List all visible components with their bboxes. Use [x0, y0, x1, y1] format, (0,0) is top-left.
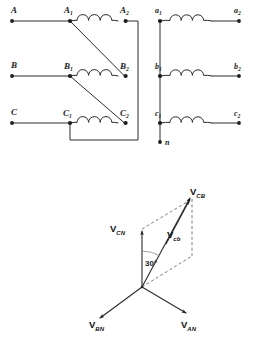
label-neutral: n	[165, 138, 170, 147]
delta-link-a2-c1	[70, 21, 138, 140]
coil-b	[70, 70, 118, 76]
label-terminal-c: C	[11, 107, 18, 117]
node-b2-terminal	[237, 74, 241, 78]
primary-circuit-group	[10, 15, 138, 140]
secondary-circuit-group	[158, 15, 241, 144]
label-vector-cn: VCN	[110, 223, 126, 236]
label-c2-secondary: c2	[234, 109, 241, 119]
label-b2: B2	[119, 61, 129, 72]
node-neutral	[158, 140, 162, 144]
coil-a-secondary	[160, 15, 212, 21]
node-c2-terminal	[237, 121, 241, 125]
angle-arc	[142, 251, 160, 256]
node-a2	[124, 19, 128, 23]
label-angle: 30°	[145, 259, 157, 268]
phasor-origin	[141, 286, 143, 288]
coil-a	[70, 15, 118, 21]
label-a1-secondary: a1	[155, 6, 162, 16]
node-b2	[124, 74, 128, 78]
node-a1	[68, 19, 72, 23]
delta-link-b1-c2	[70, 76, 125, 123]
delta-link-a1-b2	[70, 21, 125, 76]
label-c2: C2	[120, 108, 129, 119]
vector-an	[142, 287, 186, 313]
node-b1	[68, 74, 72, 78]
node-a1-secondary	[158, 19, 162, 23]
coil-c	[70, 117, 118, 123]
label-c1-secondary: c1	[155, 109, 162, 119]
node-terminal-c	[10, 121, 14, 125]
label-vector-cb-inner: Vcb	[167, 229, 181, 242]
label-vector-cb: VCB	[190, 186, 206, 199]
label-b2-secondary: b2	[234, 62, 241, 72]
node-c1-secondary	[158, 121, 162, 125]
label-terminal-a: A	[10, 5, 17, 15]
label-b1-secondary: b1	[155, 62, 162, 72]
node-terminal-a	[10, 19, 14, 23]
figure-canvas: A B C A1 A2 B1 B2 C1 C2	[0, 0, 253, 340]
dashed-cn-to-tip	[142, 199, 192, 229]
coil-b-secondary	[160, 70, 212, 76]
phasor-diagram-group	[100, 198, 192, 318]
label-vector-an: VAN	[181, 319, 197, 332]
label-b1: B1	[63, 61, 73, 72]
label-vector-bn: VBN	[89, 319, 105, 332]
coil-c-secondary	[160, 117, 212, 123]
node-terminal-b	[10, 74, 14, 78]
label-a2-secondary: a2	[234, 6, 241, 16]
label-terminal-b: B	[10, 60, 17, 70]
vector-cb	[142, 198, 190, 287]
label-a2: A2	[119, 5, 129, 16]
vector-bn	[100, 287, 142, 318]
node-c2	[124, 121, 128, 125]
label-c1: C1	[63, 108, 72, 119]
node-a2-terminal	[237, 19, 241, 23]
node-b1-secondary	[158, 74, 162, 78]
label-a1: A1	[63, 5, 73, 16]
node-c1	[68, 121, 72, 125]
